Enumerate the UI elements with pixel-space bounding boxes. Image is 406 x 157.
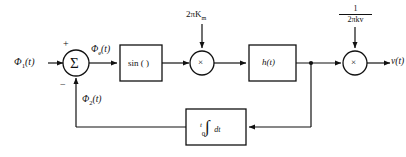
- gain-top-right-label: 1 2πkv: [339, 5, 372, 25]
- input-signal-label: Φ1(t): [14, 57, 34, 70]
- output-signal-label: v(t): [391, 57, 404, 67]
- error-signal-label: Φe(t): [91, 45, 110, 56]
- summer-plus-sign: +: [63, 39, 69, 49]
- sine-block-label: sin ( ): [128, 59, 149, 68]
- multiplier-2-symbol: ×: [351, 58, 356, 67]
- pll-block-diagram: Φ1(t) + − Σ Φe(t) sin ( ) 2πKm × h(t) 1 …: [0, 0, 406, 157]
- filter-block-label: h(t): [262, 58, 275, 67]
- feedback-signal-label: Φ2(t): [82, 95, 101, 106]
- summer-sigma-symbol: Σ: [70, 56, 79, 71]
- multiplier-1-symbol: ×: [198, 58, 203, 67]
- integrator-block-label: t∫0dt: [203, 118, 220, 135]
- summer-minus-sign: −: [60, 80, 66, 90]
- gain-top-left-label: 2πKm: [186, 10, 206, 21]
